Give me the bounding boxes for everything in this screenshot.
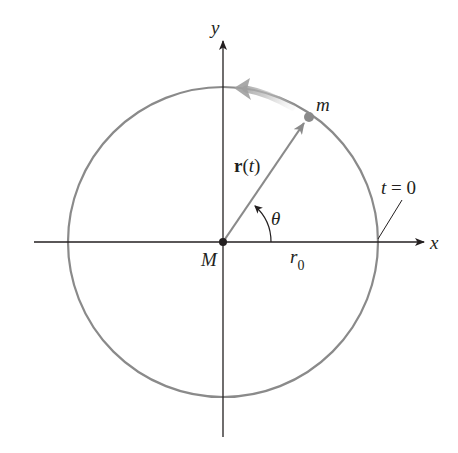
position-vector-close-paren: ) [254, 155, 260, 177]
start-time-label: t = 0 [381, 177, 416, 198]
theta-arc [255, 206, 271, 242]
x-axis-label: x [429, 232, 439, 253]
orbiting-mass-label: m [316, 94, 330, 115]
radius-label-subscript: 0 [297, 258, 304, 273]
start-time-rest: = 0 [386, 177, 416, 198]
y-axis-label: y [209, 17, 220, 38]
central-mass-point [219, 238, 227, 246]
position-vector [223, 123, 304, 242]
central-mass-label: M [200, 249, 218, 270]
radius-label: r0 [290, 246, 304, 273]
orbit-diagram: y x m r(t) θ M r0 t = 0 [0, 0, 458, 453]
velocity-arrow-icon [234, 78, 292, 107]
orbiting-mass-point [304, 112, 314, 122]
angle-label: θ [271, 208, 280, 229]
start-leader-line [378, 200, 402, 239]
position-vector-label: r(t) [234, 155, 260, 177]
